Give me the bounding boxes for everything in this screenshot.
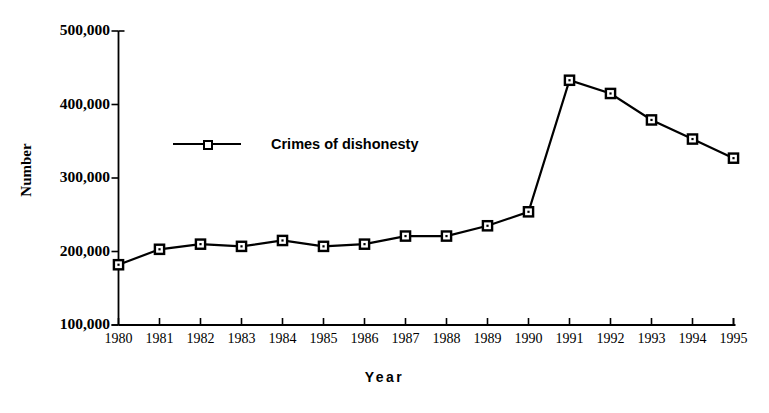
data-point-center [486,225,488,227]
axis-lines [119,31,736,325]
data-line-crimes-of-dishonesty [119,80,734,264]
data-point-center [240,245,242,247]
plot-area [0,0,769,413]
chart-page: Number 100,000200,000300,000400,000500,0… [0,0,769,413]
data-point-center [322,245,324,247]
data-point-center [158,248,160,250]
data-point-center [691,138,693,140]
data-point-center [363,243,365,245]
axis-ticks [112,31,734,325]
data-point-center [568,79,570,81]
data-point-center [609,92,611,94]
data-point-center [117,264,119,266]
data-point-markers [114,76,738,270]
data-point-center [527,211,529,213]
data-point-center [199,243,201,245]
data-point-center [650,119,652,121]
data-point-center [404,235,406,237]
data-point-center [732,157,734,159]
data-point-center [445,235,447,237]
data-point-center [281,239,283,241]
